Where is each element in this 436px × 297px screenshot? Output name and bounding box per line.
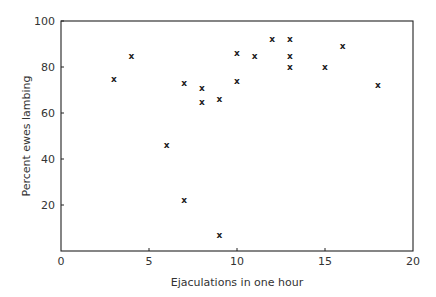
data-point-x-marker: x [216,230,222,240]
y-tick-label: 40 [41,153,55,166]
x-tick-label: 20 [406,255,420,268]
data-point-x-marker: x [287,34,293,44]
y-tick-label: 100 [34,15,55,28]
scatter-chart: 20406080100 05101520 xxxxxxxxxxxxxxxxxxx… [0,0,436,297]
data-point-x-marker: x [375,80,381,90]
x-tick-label: 0 [58,255,65,268]
data-points: xxxxxxxxxxxxxxxxxxx [111,34,381,240]
y-tick-label: 60 [41,107,55,120]
data-point-x-marker: x [340,41,346,51]
data-point-x-marker: x [322,62,328,72]
y-tick-label: 20 [41,199,55,212]
y-tick-label: 80 [41,61,55,74]
data-point-x-marker: x [269,34,275,44]
y-axis-ticks: 20406080100 [34,15,64,212]
data-point-x-marker: x [164,140,170,150]
data-point-x-marker: x [234,76,240,86]
data-point-x-marker: x [216,94,222,104]
x-axis-title: Ejaculations in one hour [171,276,304,289]
data-point-x-marker: x [181,195,187,205]
data-point-x-marker: x [128,51,134,61]
data-point-x-marker: x [252,51,258,61]
data-point-x-marker: x [234,48,240,58]
data-point-x-marker: x [199,83,205,93]
x-tick-label: 15 [318,255,332,268]
data-point-x-marker: x [287,62,293,72]
x-tick-label: 5 [146,255,153,268]
data-point-x-marker: x [111,74,117,84]
y-axis-title: Percent ewes lambing [20,75,33,196]
data-point-x-marker: x [287,51,293,61]
x-tick-label: 10 [230,255,244,268]
data-point-x-marker: x [199,97,205,107]
data-point-x-marker: x [181,78,187,88]
